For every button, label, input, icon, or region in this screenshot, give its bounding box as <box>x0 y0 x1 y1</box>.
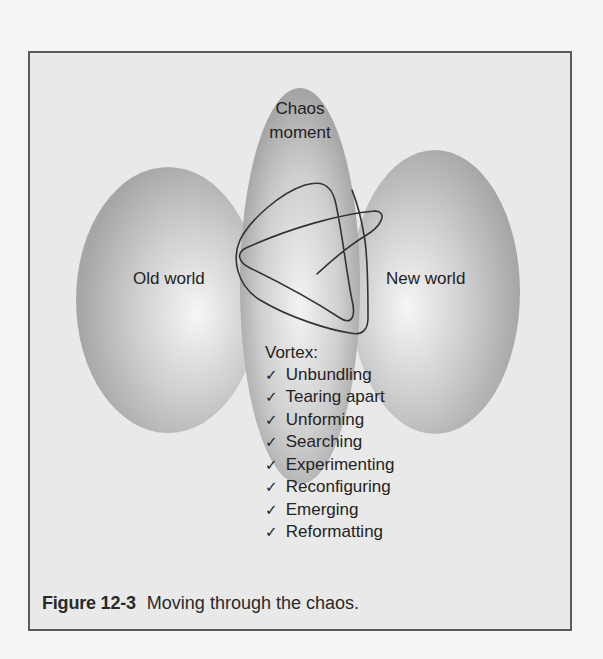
vortex-item-label: Unforming <box>286 410 364 429</box>
vortex-item-label: Emerging <box>286 500 359 519</box>
chaos-title-line1: Chaos <box>240 97 360 121</box>
check-icon: ✓ <box>265 387 281 409</box>
vortex-item: ✓ Unforming <box>265 409 394 432</box>
vortex-item: ✓ Reformatting <box>265 521 394 544</box>
new-world-label: New world <box>386 270 465 287</box>
vortex-item-label: Searching <box>286 432 363 451</box>
vortex-item-label: Reconfiguring <box>286 477 391 496</box>
chaos-title-line2: moment <box>240 121 360 145</box>
vortex-item: ✓ Experimenting <box>265 454 394 477</box>
vortex-item-label: Unbundling <box>286 365 372 384</box>
check-icon: ✓ <box>265 432 281 454</box>
figure-caption-text: Moving through the chaos. <box>147 593 359 613</box>
vortex-item: ✓ Tearing apart <box>265 386 394 409</box>
vortex-item: ✓ Searching <box>265 431 394 454</box>
figure-number: Figure 12-3 <box>42 593 136 613</box>
vortex-item-label: Tearing apart <box>285 387 384 406</box>
vortex-item: ✓ Reconfiguring <box>265 476 394 499</box>
vortex-item: ✓ Unbundling <box>265 364 394 387</box>
check-icon: ✓ <box>265 477 281 499</box>
old-world-label: Old world <box>133 270 205 287</box>
page: Chaos moment Old world New world Vortex:… <box>0 0 603 659</box>
old-world-bubble <box>76 167 260 433</box>
vortex-item: ✓ Emerging <box>265 499 394 522</box>
vortex-item-label: Experimenting <box>286 455 395 474</box>
check-icon: ✓ <box>265 455 281 477</box>
check-icon: ✓ <box>265 522 281 544</box>
figure-caption: Figure 12-3 Moving through the chaos. <box>42 593 359 614</box>
chaos-moment-label: Chaos moment <box>240 97 360 145</box>
vortex-item-label: Reformatting <box>286 522 383 541</box>
vortex-list: Vortex: ✓ Unbundling ✓ Tearing apart ✓ U… <box>265 342 394 544</box>
check-icon: ✓ <box>265 365 281 387</box>
check-icon: ✓ <box>265 410 281 432</box>
vortex-heading: Vortex: <box>265 342 394 364</box>
check-icon: ✓ <box>265 500 281 522</box>
